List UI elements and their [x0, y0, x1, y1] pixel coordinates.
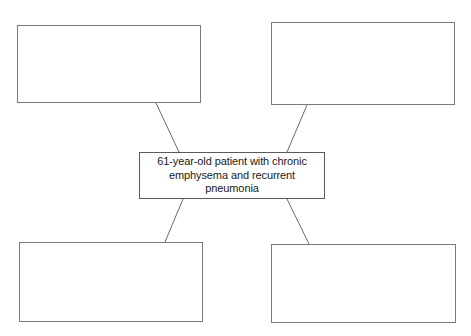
connector-top-left — [156, 103, 179, 152]
connector-bottom-left — [165, 199, 183, 242]
concept-map-diagram: 61-year-old patient with chronic emphyse… — [0, 0, 471, 336]
node-top-left-text — [18, 26, 200, 102]
node-box-bottom-left[interactable] — [19, 242, 203, 322]
node-top-right-text — [272, 23, 454, 104]
center-node-label: 61-year-old patient with chronic emphyse… — [140, 155, 324, 196]
node-bottom-right-text — [272, 245, 455, 322]
node-box-top-left[interactable] — [17, 25, 201, 103]
center-node-box[interactable]: 61-year-old patient with chronic emphyse… — [139, 152, 325, 199]
node-box-top-right[interactable] — [271, 22, 455, 105]
node-bottom-left-text — [20, 243, 202, 321]
connector-top-right — [287, 105, 307, 152]
connector-bottom-right — [287, 199, 309, 244]
node-box-bottom-right[interactable] — [271, 244, 456, 323]
